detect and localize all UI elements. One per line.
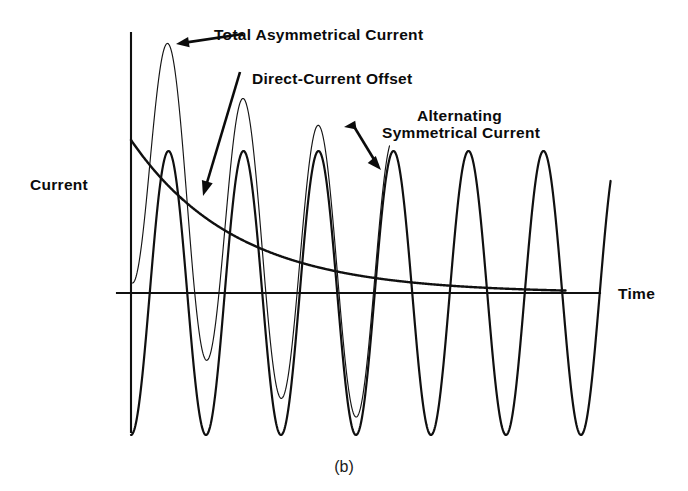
label-direct-current-offset: Direct-Current Offset — [252, 70, 412, 87]
arrowhead-left-alternating-symmetrical-current — [344, 121, 357, 130]
arrowhead-direct-current-offset — [202, 180, 213, 196]
waveforms-group — [131, 43, 611, 435]
label-symmetrical-current-line2: Symmetrical Current — [382, 124, 540, 141]
annotation-alternating-symmetrical-current: Alternating Symmetrical Current — [344, 107, 540, 170]
y-axis-label: Current — [30, 176, 88, 193]
annotation-total-asymmetrical-current: Total Asymmetrical Current — [176, 26, 423, 47]
arrowhead-down-alternating-symmetrical-current — [368, 156, 381, 170]
arrowhead-total-asymmetrical-current — [176, 37, 190, 47]
figure-caption: (b) — [334, 458, 354, 475]
direct-current-offset-curve — [131, 140, 566, 291]
asymmetrical-fault-current-figure: Total Asymmetrical Current Direct-Curren… — [0, 0, 688, 491]
x-axis-label: Time — [618, 285, 655, 302]
total-asymmetrical-current-curve — [131, 43, 390, 417]
label-total-asymmetrical-current: Total Asymmetrical Current — [214, 26, 423, 43]
label-alternating-line1: Alternating — [417, 107, 502, 124]
